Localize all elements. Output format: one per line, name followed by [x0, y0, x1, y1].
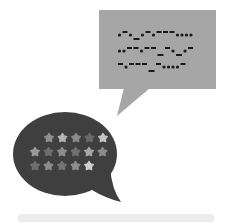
bottom-bar — [18, 214, 214, 222]
speech-bubbles-illustration — [0, 0, 231, 222]
stars-speech-bubble — [13, 112, 121, 202]
code-speech-bubble — [99, 10, 216, 116]
